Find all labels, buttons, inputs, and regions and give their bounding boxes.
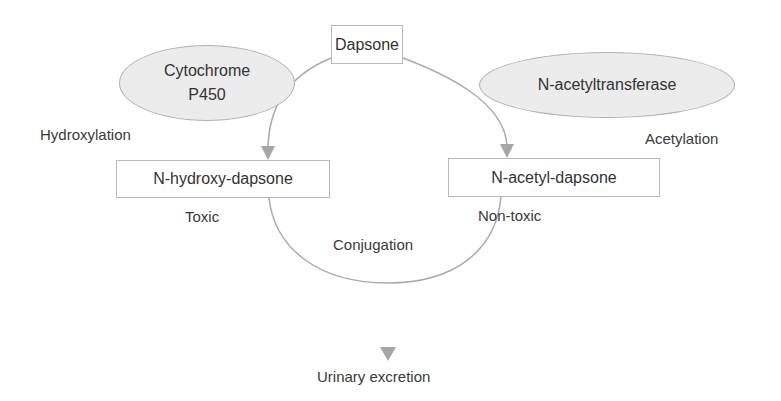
node-n-acetyl-dapsone-label: N-acetyl-dapsone (491, 169, 616, 187)
excretion-arrowhead-icon (380, 347, 396, 361)
process-conjugation: Conjugation (333, 236, 413, 253)
enzyme-n-acetyltransferase: N-acetyltransferase (479, 52, 735, 118)
enzyme-cytochrome-line2: P450 (164, 83, 250, 107)
node-dapsone-label: Dapsone (335, 36, 399, 54)
node-n-acetyl-dapsone: N-acetyl-dapsone (448, 158, 660, 197)
enzyme-n-acetyltransferase-label: N-acetyltransferase (538, 73, 677, 97)
node-n-hydroxy-dapsone: N-hydroxy-dapsone (116, 160, 330, 198)
annotation-toxic: Toxic (185, 208, 219, 225)
outcome-urinary-excretion: Urinary excretion (317, 368, 430, 385)
process-acetylation: Acetylation (645, 130, 718, 147)
hydroxylation-arrowhead-icon (261, 146, 275, 160)
node-n-hydroxy-dapsone-label: N-hydroxy-dapsone (153, 170, 293, 188)
node-dapsone: Dapsone (331, 25, 403, 64)
annotation-non-toxic: Non-toxic (478, 207, 541, 224)
enzyme-cytochrome-line1: Cytochrome (164, 59, 250, 83)
acetylation-arrowhead-icon (500, 144, 514, 158)
process-hydroxylation: Hydroxylation (40, 126, 131, 143)
enzyme-cytochrome-p450: Cytochrome P450 (119, 45, 295, 121)
